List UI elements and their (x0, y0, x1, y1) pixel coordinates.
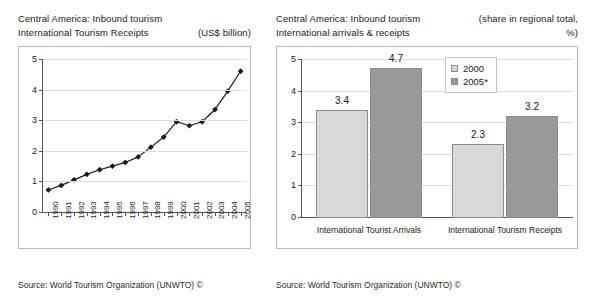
right-chart-panel: Central America: Inbound tourism (share … (268, 0, 592, 300)
x-axis-category-label: International Tourist Arrivals (301, 225, 437, 235)
gridline-y (42, 59, 247, 60)
legend-label-2000: 2000 (463, 62, 484, 75)
right-chart-title-line1: Central America: Inbound tourism (276, 12, 420, 26)
right-chart-title-line2: International arrivals & receipts (276, 26, 410, 40)
legend-item-2000[interactable]: 2000 (451, 62, 488, 75)
right-chart-unit-note-line2: %) (566, 26, 578, 40)
right-chart-header-line1: Central America: Inbound tourism (share … (276, 12, 578, 26)
gridline-y (42, 151, 247, 152)
gridline-y (42, 181, 247, 182)
line-data-point-marker (46, 187, 52, 193)
bar-value-label: 4.7 (364, 54, 428, 64)
left-chart-source: Source: World Tourism Organization (UNWT… (18, 280, 203, 290)
legend-swatch-2000-icon (451, 65, 458, 72)
y-axis-tick-label: 5 (21, 55, 37, 64)
line-data-point-marker (58, 182, 64, 188)
left-chart-unit-note: (US$ billion) (198, 26, 251, 40)
x-axis-tick-label: 2005 (244, 201, 252, 219)
tick-mark-x (61, 213, 62, 216)
tick-mark-x (87, 213, 88, 216)
figure-container: Central America: Inbound tourism Interna… (0, 0, 592, 300)
x-axis-category-label: International Tourism Receipts (437, 225, 573, 235)
tick-mark-x (228, 213, 229, 216)
y-axis-tick-label: 3 (280, 118, 296, 127)
gridline-y (301, 59, 573, 60)
line-chart-plot-frame: 0123451990199119921993199419951996199719… (18, 46, 251, 249)
line-data-point-marker (186, 123, 192, 129)
line-data-point-marker (122, 160, 128, 166)
x-axis-tick-label: 1990 (52, 201, 60, 219)
legend-label-2005: 2005* (463, 75, 488, 88)
y-axis-line (42, 59, 43, 213)
gridline-y (42, 90, 247, 91)
bar-value-label: 3.2 (500, 102, 564, 112)
y-axis-tick-label: 1 (280, 181, 296, 190)
bar-value-label: 2.3 (446, 130, 510, 140)
tick-mark-x (189, 213, 190, 216)
bar-value-label: 3.4 (310, 96, 374, 106)
y-axis-tick-label: 0 (280, 213, 296, 222)
x-axis-tick-label: 1999 (167, 201, 175, 219)
tick-mark-x (202, 213, 203, 216)
left-chart-panel: Central America: Inbound tourism Interna… (0, 0, 268, 300)
y-axis-tick-label: 1 (21, 177, 37, 186)
y-axis-tick-label: 5 (280, 55, 296, 64)
tick-mark-x (112, 213, 113, 216)
gridline-y (301, 91, 573, 92)
tick-mark-x (48, 213, 49, 216)
x-axis-tick-label: 2001 (193, 201, 201, 219)
y-axis-tick-label: 2 (280, 149, 296, 158)
y-axis-tick-label: 2 (21, 146, 37, 155)
tick-mark-x (241, 213, 242, 216)
line-data-point-marker (97, 167, 103, 173)
bar-2000-arrivals[interactable] (316, 110, 368, 218)
x-axis-tick-label: 1994 (103, 201, 111, 219)
line-data-point-marker (238, 68, 244, 74)
x-axis-tick-label: 1993 (90, 201, 98, 219)
bar-chart-legend: 2000 2005* (445, 57, 497, 93)
x-axis-tick-label: 2000 (180, 201, 188, 219)
left-chart-header-line1: Central America: Inbound tourism (18, 12, 251, 26)
legend-item-2005[interactable]: 2005* (451, 75, 488, 88)
y-axis-tick-label: 3 (21, 116, 37, 125)
x-axis-tick-label: 2004 (231, 201, 239, 219)
tick-mark-x (177, 213, 178, 216)
gridline-y (42, 120, 247, 121)
y-axis-line (301, 59, 302, 218)
tick-mark-x (125, 213, 126, 216)
right-chart-header-line2: International arrivals & receipts %) (276, 26, 578, 40)
y-axis-tick-label: 4 (280, 86, 296, 95)
tick-mark-x (164, 213, 165, 216)
bar-chart-plot-frame: 012345 3.44.7International Tourist Arriv… (276, 46, 578, 249)
line-data-point-marker (84, 171, 90, 177)
x-axis-tick-label: 2003 (218, 201, 226, 219)
tick-mark-x (215, 213, 216, 216)
tick-mark-x (138, 213, 139, 216)
left-chart-header-line2: International Tourism Receipts (US$ bill… (18, 26, 251, 40)
x-axis-tick-label: 1992 (78, 201, 86, 219)
tick-mark-x (100, 213, 101, 216)
bar-2005-arrivals[interactable] (370, 68, 422, 218)
tick-mark-x (74, 213, 75, 216)
right-chart-unit-note-line1: (share in regional total, (479, 12, 578, 26)
y-axis-tick-label: 0 (21, 208, 37, 217)
x-axis-tick-label: 1995 (116, 201, 124, 219)
x-axis-tick-label: 2002 (206, 201, 214, 219)
x-axis-tick-label: 1998 (154, 201, 162, 219)
right-chart-source: Source: World Tourism Organization (UNWT… (276, 280, 461, 290)
bar-2000-receipts[interactable] (452, 144, 504, 218)
x-axis-tick-label: 1996 (129, 201, 137, 219)
legend-swatch-2005-icon (451, 78, 458, 85)
line-data-point-marker (110, 163, 116, 169)
left-chart-title-line2: International Tourism Receipts (18, 26, 149, 40)
bar-2005-receipts[interactable] (506, 116, 558, 218)
tick-mark-x (151, 213, 152, 216)
x-axis-tick-label: 1997 (142, 201, 150, 219)
y-axis-tick-label: 4 (21, 85, 37, 94)
line-chart-series-svg (19, 47, 252, 250)
left-chart-title-line1: Central America: Inbound tourism (18, 12, 162, 26)
x-axis-tick-label: 1991 (65, 201, 73, 219)
